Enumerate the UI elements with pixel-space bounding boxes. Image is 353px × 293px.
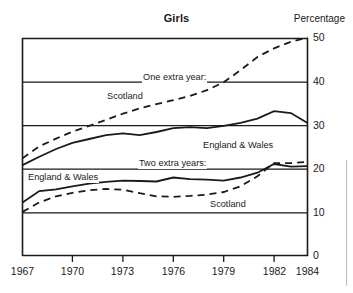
x-tick-1970: 1970 xyxy=(51,265,94,277)
annotation-one-extra-year: One extra year: xyxy=(142,72,207,83)
series-one-extra-year-england-wales xyxy=(23,111,308,165)
x-tick-1984: 1984 xyxy=(286,265,329,277)
y-tick-20: 20 xyxy=(313,162,325,174)
y-tick-10: 10 xyxy=(313,206,325,218)
annotation-england-wales-top: England & Wales xyxy=(202,140,274,151)
x-axis-ticks xyxy=(72,256,274,262)
chart-figure: Girls Percentage xyxy=(0,0,353,293)
x-tick-1976: 1976 xyxy=(152,265,195,277)
page-edge-rule xyxy=(346,160,347,286)
annotation-scotland-bottom: Scotland xyxy=(209,199,247,210)
annotation-scotland-top: Scotland xyxy=(106,91,144,102)
y-tick-0: 0 xyxy=(313,249,319,261)
x-tick-1979: 1979 xyxy=(202,265,245,277)
y-tick-40: 40 xyxy=(313,75,325,87)
x-tick-1973: 1973 xyxy=(101,265,144,277)
chart-plot xyxy=(0,0,353,293)
y-tick-50: 50 xyxy=(313,31,325,43)
y-tick-30: 30 xyxy=(313,119,325,131)
x-tick-1967: 1967 xyxy=(1,265,44,277)
annotation-england-wales-bottom: England & Wales xyxy=(27,172,99,183)
annotation-two-extra-years: Two extra years: xyxy=(138,158,207,169)
